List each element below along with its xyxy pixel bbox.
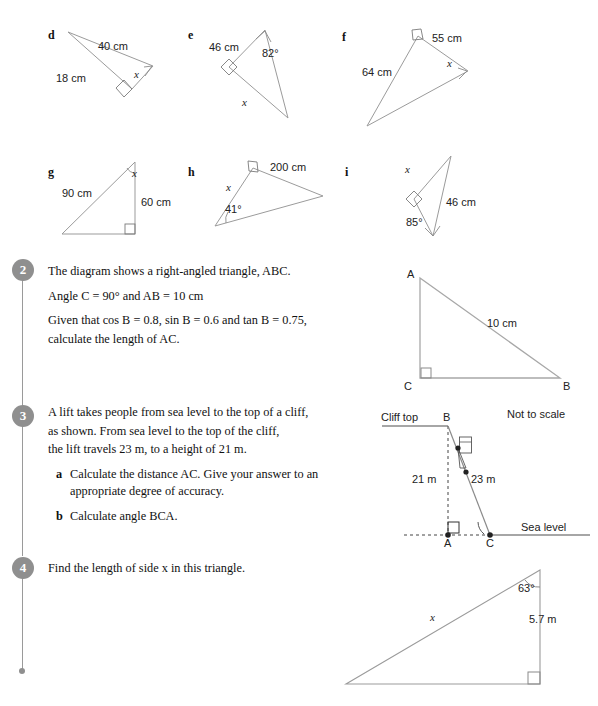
question-2-line-2: Angle C = 90° and AB = 10 cm <box>48 288 358 306</box>
question-rule-2 <box>22 275 23 412</box>
question-rule-4 <box>22 572 23 670</box>
question-2-line-4: calculate the length of AC. <box>48 331 358 349</box>
label-i-46cm: 46 cm <box>446 196 476 208</box>
subpart-a-text: Calculate the distance AC. Give your ans… <box>70 467 318 499</box>
part-letter-i: i <box>345 165 348 180</box>
worksheet-page: d 40 cm 18 cm x e 46 cm 82° x f 55 cm 64… <box>0 0 598 706</box>
label-f-x: x <box>447 57 452 69</box>
label-h-41deg: 41° <box>225 203 242 215</box>
diagram-question-4 <box>335 562 580 702</box>
subpart-b-label: b <box>56 508 63 526</box>
part-letter-h: h <box>188 165 195 180</box>
subpart-b-text: Calculate angle BCA. <box>70 509 178 523</box>
question-4-line-1: Find the length of side x in this triang… <box>48 560 348 578</box>
question-2-line-1: The diagram shows a right-angled triangl… <box>48 263 358 281</box>
question-marker-3: 3 <box>12 405 34 427</box>
label-q3-lift-distance: 23 m <box>471 473 495 485</box>
question-marker-4: 4 <box>12 557 34 579</box>
label-q2-hypotenuse: 10 cm <box>487 317 517 329</box>
label-f-64cm: 64 cm <box>362 66 392 78</box>
label-f-55cm: 55 cm <box>432 32 462 44</box>
label-q3-sea-level: Sea level <box>521 521 566 533</box>
part-letter-d: d <box>48 28 55 43</box>
label-h-200cm: 200 cm <box>270 161 306 173</box>
label-h-x: x <box>226 181 231 193</box>
label-q3-vertex-b: B <box>443 411 450 423</box>
label-g-x: x <box>132 167 137 179</box>
label-i-x: x <box>405 163 410 175</box>
question-3-line-3: the lift travels 23 m, to a height of 21… <box>48 441 363 459</box>
question-rule-end-dot <box>19 668 25 674</box>
question-3-line-1: A lift takes people from sea level to th… <box>48 404 363 422</box>
label-d-18cm: 18 cm <box>56 72 86 84</box>
label-e-x: x <box>242 96 247 108</box>
label-q3-height: 21 m <box>412 473 436 485</box>
subpart-a-label: a <box>56 466 62 484</box>
label-q3-cliff-top: Cliff top <box>381 411 418 423</box>
label-q3-vertex-c: C <box>486 537 494 549</box>
label-q2-vertex-a: A <box>407 268 414 280</box>
label-g-60cm: 60 cm <box>141 196 171 208</box>
label-q2-vertex-b: B <box>563 380 570 392</box>
label-q3-not-to-scale: Not to scale <box>507 408 565 420</box>
question-2-line-3: Given that cos B = 0.8, sin B = 0.6 and … <box>48 312 358 330</box>
label-d-40cm: 40 cm <box>98 40 128 52</box>
part-letter-e: e <box>188 28 193 43</box>
part-letter-f: f <box>342 30 346 45</box>
question-3-text: A lift takes people from sea level to th… <box>48 404 363 525</box>
question-3-subpart-b: b Calculate angle BCA. <box>56 508 363 526</box>
question-4-text: Find the length of side x in this triang… <box>48 560 348 579</box>
label-q4-side: 5.7 m <box>529 613 557 625</box>
diagram-i <box>378 152 498 252</box>
question-3-line-2: as shown. From sea level to the top of t… <box>48 423 363 441</box>
question-rule-3 <box>22 424 23 556</box>
label-e-82deg: 82° <box>262 47 279 59</box>
question-3-subpart-a: a Calculate the distance AC. Give your a… <box>56 466 363 501</box>
question-marker-2: 2 <box>12 259 34 281</box>
label-e-46cm: 46 cm <box>209 41 239 53</box>
label-q4-hypotenuse: x <box>430 611 435 623</box>
label-q3-vertex-a: A <box>444 537 451 549</box>
label-d-x: x <box>134 68 139 80</box>
question-2-text: The diagram shows a right-angled triangl… <box>48 263 358 349</box>
label-g-90cm: 90 cm <box>62 187 92 199</box>
part-letter-g: g <box>48 165 54 180</box>
label-i-85deg: 85° <box>406 216 423 228</box>
diagram-question-2 <box>400 268 580 393</box>
label-q4-angle: 63° <box>518 582 535 594</box>
label-q2-vertex-c: C <box>404 380 412 392</box>
